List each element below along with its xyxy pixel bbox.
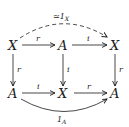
node-top-right: X [109,38,120,53]
label-r-top: r [36,34,41,43]
label-i-bottom: i [37,82,40,91]
label-identity-a: 1A [57,115,67,125]
arrow-dashed-identity-x [20,24,107,38]
label-r-left: r [17,65,22,74]
node-bottom-middle: X [57,86,68,101]
node-bottom-right: A [109,86,119,101]
commutative-diagram: X A X A X A r i ≃1X r i r i r 1A [0,0,129,127]
node-bottom-left: A [7,86,17,101]
label-approx-identity-x: ≃1X [53,12,70,22]
node-top-left: X [7,38,18,53]
label-i-middle: i [67,65,70,74]
label-r-right: r [119,65,124,74]
node-top-middle: A [57,38,67,53]
label-i-top: i [87,34,90,43]
label-r-bottom: r [87,82,92,91]
